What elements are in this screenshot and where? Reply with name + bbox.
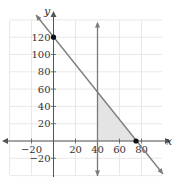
y-axis-label: y [43,5,51,18]
point-y-intercept [51,35,56,40]
y-tick-label: 40 [38,101,51,112]
y-tick-label: 60 [38,84,51,95]
y-tick-label: 80 [38,66,51,77]
y-axis-arrow-icon [51,11,57,17]
x-axis-label: x [166,135,172,148]
arrow-icon [95,171,100,177]
point-x-intercept [133,138,138,143]
y-tick-label: −20 [29,153,50,164]
x-tick-label: 60 [113,144,126,155]
y-tick-label: 20 [38,118,51,129]
arrow-icon [95,22,100,28]
tick-labels: −2020406080−2020406080100120 [21,32,148,164]
chart: −2020406080−2020406080100120 x y [0,0,172,181]
x-axis-arrow-icon [2,138,8,144]
y-tick-label: 120 [31,32,50,43]
x-tick-label: 20 [69,144,82,155]
y-tick-label: 100 [31,49,50,60]
